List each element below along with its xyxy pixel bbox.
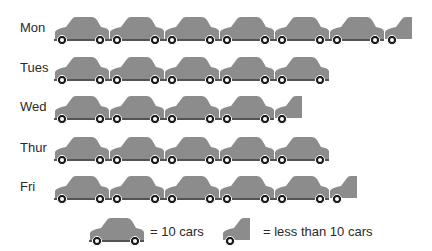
car-icon [109,57,164,85]
car-icon [219,17,274,45]
car-icon [109,17,164,45]
car-icon [274,17,329,45]
row-label: Wed [20,99,47,114]
row-mon: Mon [20,17,412,45]
partial-car-icon [385,17,412,45]
car-icon [274,176,329,204]
car-icon [54,57,109,85]
legend: = 10 cars = less than 10 cars [89,218,373,246]
car-icon [219,57,274,85]
legend-label-partial: = less than 10 cars [263,224,373,239]
car-icon [54,96,109,124]
car-icon [164,57,219,85]
row-label: Mon [20,20,45,35]
partial-car-icon [330,176,357,204]
row-tues: Tues [20,57,329,85]
row-label: Thur [20,140,47,155]
car-icon [219,137,274,165]
row-wed: Wed [20,96,302,124]
car-icon [109,176,164,204]
car-icon [109,137,164,165]
car-icon [164,96,219,124]
row-fri: Fri [20,176,357,204]
legend-label-full: = 10 cars [150,224,204,239]
row-label: Tues [20,60,49,75]
row-label: Fri [20,179,35,194]
partial-car-icon [275,96,302,124]
car-icon [54,176,109,204]
legend-partial-car-icon [223,218,250,246]
car-icon [54,137,109,165]
car-icon [164,17,219,45]
car-icon [219,176,274,204]
car-icon [219,96,274,124]
car-icon [109,96,164,124]
chart-rows: MonTuesWedThurFri [20,17,412,204]
car-icon [164,137,219,165]
legend-item-full: = 10 cars [89,218,204,246]
legend-item-partial: = less than 10 cars [223,218,373,246]
car-icon [329,17,384,45]
legend-full-car-icon [89,218,144,246]
pictogram-chart: MonTuesWedThurFri = 10 cars = less than … [0,0,432,251]
car-icon [274,137,329,165]
car-icon [54,17,109,45]
car-icon [274,57,329,85]
car-icon [164,176,219,204]
row-thur: Thur [20,137,329,165]
